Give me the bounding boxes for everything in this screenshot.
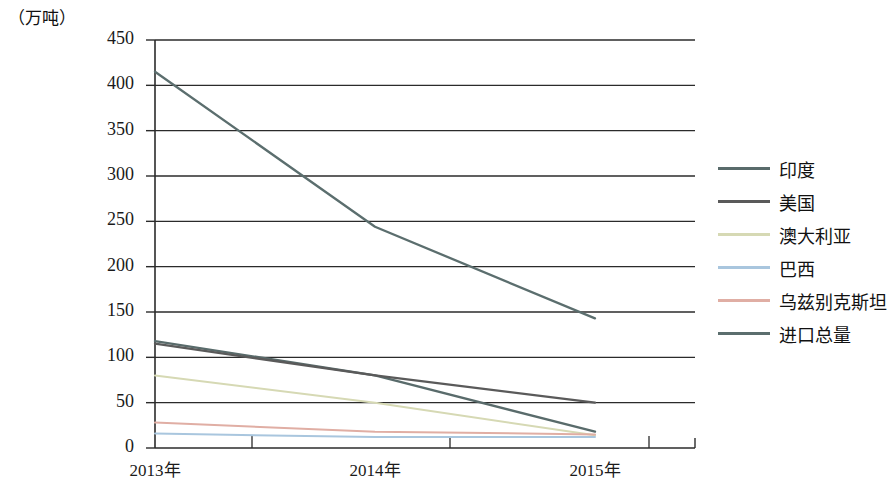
legend-item[interactable]: 巴西 xyxy=(718,251,886,284)
legend-item-label: 进口总量 xyxy=(779,321,851,347)
legend-item-label: 美国 xyxy=(779,189,815,215)
legend-swatch-icon xyxy=(718,200,770,203)
y-axis-tick-label: 350 xyxy=(38,119,134,140)
legend-swatch-icon xyxy=(718,332,770,335)
legend-swatch-icon xyxy=(718,299,770,302)
series-line xyxy=(155,344,595,403)
legend-swatch-icon xyxy=(718,167,770,170)
legend-swatch-icon xyxy=(718,233,770,236)
legend-swatch-icon xyxy=(718,266,770,269)
y-axis-tick-label: 100 xyxy=(38,345,134,366)
y-axis-tick-label: 0 xyxy=(38,436,134,457)
y-axis-tick-label: 150 xyxy=(38,300,134,321)
legend-item-label: 乌兹别克斯坦 xyxy=(779,288,887,314)
y-axis-tick-label: 250 xyxy=(38,209,134,230)
chart-legend: 印度美国澳大利亚巴西乌兹别克斯坦进口总量 xyxy=(718,152,886,350)
series-line xyxy=(155,72,595,319)
legend-item-label: 巴西 xyxy=(779,255,815,281)
y-axis-tick-label: 200 xyxy=(38,255,134,276)
x-axis-tick-label: 2015年 xyxy=(525,456,665,481)
y-axis-ticks xyxy=(146,40,155,448)
legend-item-label: 澳大利亚 xyxy=(779,222,851,248)
y-axis-tick-label: 50 xyxy=(38,391,134,412)
x-axis-tick-label: 2014年 xyxy=(305,456,445,481)
gridlines xyxy=(155,40,695,448)
legend-item[interactable]: 乌兹别克斯坦 xyxy=(718,284,886,317)
y-axis-tick-label: 300 xyxy=(38,164,134,185)
y-axis-tick-label: 400 xyxy=(38,73,134,94)
legend-item[interactable]: 印度 xyxy=(718,152,886,185)
x-axis-tick-label: 2013年 xyxy=(85,456,225,481)
series-line xyxy=(155,341,595,432)
series-line xyxy=(155,423,595,435)
y-axis-tick-label: 450 xyxy=(38,28,134,49)
legend-item-label: 印度 xyxy=(779,156,815,182)
axis-lines xyxy=(155,40,695,448)
line-chart: （万吨） 450400350300250200150100500 2013年20… xyxy=(0,0,887,481)
legend-item[interactable]: 美国 xyxy=(718,185,886,218)
legend-item[interactable]: 澳大利亚 xyxy=(718,218,886,251)
series-lines xyxy=(155,72,595,437)
legend-item[interactable]: 进口总量 xyxy=(718,317,886,350)
